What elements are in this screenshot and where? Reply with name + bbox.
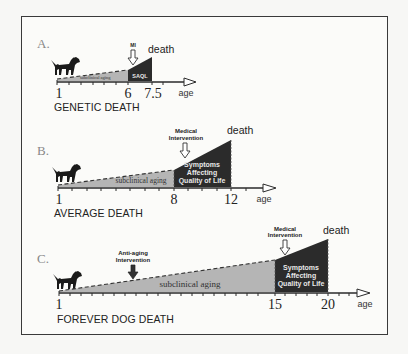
tick-label: 12	[224, 192, 238, 207]
panel-caption: FOREVER DOG DEATH	[57, 313, 174, 325]
symptom-label-line: Symptoms	[184, 161, 220, 169]
intervention-label: Medical	[175, 128, 197, 134]
hollow-down-arrow-icon	[280, 240, 290, 255]
axis-arrow-icon	[357, 289, 370, 297]
anti-aging-label: Intervention	[116, 257, 151, 263]
axis-arrow-icon	[184, 78, 196, 86]
subclinical-label: subclinical aging	[159, 279, 221, 289]
subclinical-label: subclinical aging	[115, 176, 166, 185]
panel-a: A. subclinical aging SAQL MI death 1 6 7…	[37, 36, 196, 113]
tick-label: 8	[171, 192, 178, 207]
panel-letter: C.	[37, 251, 49, 266]
tick-label: 1	[56, 297, 63, 312]
death-label: death	[227, 124, 253, 136]
hollow-down-arrow-icon	[128, 50, 138, 65]
symptom-label-line: Symptoms	[283, 264, 319, 272]
axis-label: age	[357, 299, 372, 309]
tick-label: 6	[125, 86, 132, 101]
panel-letter: B.	[37, 143, 49, 158]
panel-letter: A.	[37, 36, 50, 51]
dog-icon	[52, 164, 81, 182]
panel-b: B. subclinical aging Symptoms Affecting …	[37, 124, 276, 219]
lifespan-diagram: A. subclinical aging SAQL MI death 1 6 7…	[0, 0, 408, 354]
death-label: death	[323, 224, 349, 236]
subclinical-label: subclinical aging	[80, 75, 111, 80]
tick-label: 1	[56, 86, 63, 101]
intervention-label: Intervention	[268, 232, 303, 238]
symptom-label: SAQL	[132, 73, 148, 79]
symptom-label-line: Quality of Life	[179, 177, 226, 185]
tick-label: 7.5	[144, 86, 162, 101]
hollow-down-arrow-icon	[180, 143, 190, 158]
symptom-label-line: Quality of Life	[278, 280, 325, 288]
axis-arrow-icon	[263, 184, 276, 192]
tick-label: 20	[321, 297, 335, 312]
intervention-label: Intervention	[169, 135, 204, 141]
panel-c: C. subclinical aging Symptoms Affecting …	[37, 224, 373, 325]
tick-label: 15	[268, 297, 282, 312]
panel-caption: GENETIC DEATH	[54, 101, 140, 113]
axis-label: age	[178, 88, 193, 98]
filled-down-arrow-icon	[128, 265, 138, 279]
dog-icon	[51, 57, 80, 75]
anti-aging-label: Anti-aging	[118, 250, 148, 256]
death-label: death	[148, 43, 174, 55]
symptom-label-line: Affecting	[187, 169, 217, 177]
intervention-label: MI	[130, 42, 136, 48]
tick-label: 1	[56, 192, 63, 207]
dog-icon	[53, 271, 82, 289]
symptom-label-line: Affecting	[286, 272, 316, 280]
panel-caption: AVERAGE DEATH	[54, 207, 143, 219]
axis-label: age	[256, 194, 271, 204]
